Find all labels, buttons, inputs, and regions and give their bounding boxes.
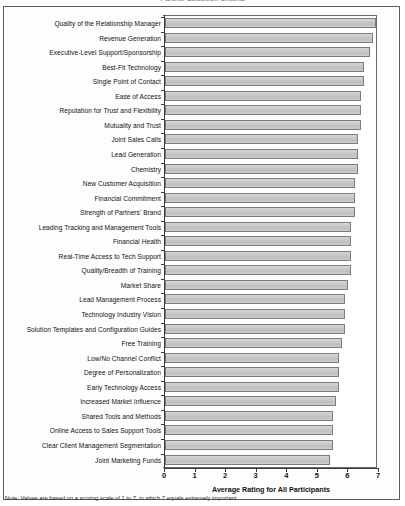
x-axis-tick-label: 6: [337, 471, 357, 480]
chart-title-text: Partner Selection Criteria: [0, 0, 405, 2]
bar: [165, 309, 345, 319]
bar: [165, 76, 364, 86]
bar: [165, 149, 358, 159]
bar: [165, 280, 348, 290]
bar: [165, 367, 339, 377]
bar: [165, 265, 351, 275]
bar: [165, 47, 370, 57]
bar-row: Lead Generation: [4, 148, 401, 162]
bar-series-layer: Quality of the Relationship ManagerReven…: [4, 7, 401, 477]
bar-row: Solution Templates and Configuration Gui…: [4, 323, 401, 337]
bar-category-label: Real-Time Access to Tech Support: [0, 251, 161, 262]
bar-row: Free Training: [4, 337, 401, 351]
bar: [165, 324, 345, 334]
bar: [165, 18, 376, 28]
x-axis-title: Average Rating for All Participants: [164, 485, 378, 494]
bar-row: Quality/Breadth of Training: [4, 264, 401, 278]
bar-row: Online Access to Sales Support Tools: [4, 424, 401, 438]
bar-category-label: Market Share: [0, 280, 161, 291]
bar-category-label: Chemistry: [0, 164, 161, 175]
bar: [165, 193, 355, 203]
bar-category-label: Increased Market Influence: [0, 396, 161, 407]
x-axis-tick-label: 2: [215, 471, 235, 480]
bar-row: Technology Industry Vision: [4, 308, 401, 322]
bar-category-label: Revenue Generation: [0, 33, 161, 44]
bar-row: Revenue Generation: [4, 32, 401, 46]
bar-row: Strength of Partners' Brand: [4, 206, 401, 220]
bar-category-label: Strength of Partners' Brand: [0, 207, 161, 218]
bar-category-label: Quality of the Relationship Manager: [0, 18, 161, 29]
x-axis-tick-label: 7: [368, 471, 388, 480]
bar: [165, 164, 358, 174]
bar: [165, 120, 361, 130]
bar: [165, 178, 355, 188]
bar-category-label: Clear Client Management Segmentation: [0, 440, 161, 451]
bar-row: Low/No Channel Conflict: [4, 352, 401, 366]
bar-category-label: Solution Templates and Configuration Gui…: [0, 324, 161, 335]
bar: [165, 251, 351, 261]
bar-row: Clear Client Management Segmentation: [4, 439, 401, 453]
bar-category-label: Joint Marketing Funds: [0, 455, 161, 466]
bar: [165, 455, 330, 465]
bar-category-label: Ease of Access: [0, 91, 161, 102]
bar-category-label: Lead Management Process: [0, 294, 161, 305]
bar-row: Increased Market Influence: [4, 395, 401, 409]
bar: [165, 91, 361, 101]
bar-row: Market Share: [4, 279, 401, 293]
x-axis-tick-label: 5: [307, 471, 327, 480]
bar-category-label: Reputation for Trust and Flexibility: [0, 105, 161, 116]
bar: [165, 294, 345, 304]
bar-category-label: Low/No Channel Conflict: [0, 353, 161, 364]
bar-row: Best-Fit Technology: [4, 61, 401, 75]
bar-row: Financial Commitment: [4, 192, 401, 206]
bar-row: Real-Time Access to Tech Support: [4, 250, 401, 264]
bar-category-label: Technology Industry Vision: [0, 309, 161, 320]
bar-category-label: Joint Sales Calls: [0, 134, 161, 145]
bar: [165, 134, 358, 144]
bar-row: Single Point of Contact: [4, 75, 401, 89]
x-axis-tick-label: 0: [154, 471, 174, 480]
bar: [165, 382, 339, 392]
bar-row: Executive-Level Support/Sponsorship: [4, 46, 401, 60]
bar-row: Shared Tools and Methods: [4, 410, 401, 424]
bar: [165, 411, 333, 421]
bar-category-label: Mutuality and Trust: [0, 120, 161, 131]
bar: [165, 396, 336, 406]
bar: [165, 62, 364, 72]
bar-category-label: Free Training: [0, 338, 161, 349]
bar-category-label: Shared Tools and Methods: [0, 411, 161, 422]
bar-row: Quality of the Relationship Manager: [4, 17, 401, 31]
chart-page-frame: Quality of the Relationship ManagerReven…: [3, 6, 400, 500]
bar-row: Leading Tracking and Management Tools: [4, 221, 401, 235]
bar-category-label: Single Point of Contact: [0, 76, 161, 87]
bar-category-label: Quality/Breadth of Training: [0, 265, 161, 276]
bar-category-label: Executive-Level Support/Sponsorship: [0, 47, 161, 58]
bar: [165, 353, 339, 363]
bar-category-label: Financial Health: [0, 236, 161, 247]
value-axis-line: [164, 468, 378, 469]
bar-category-label: New Customer Acquisition: [0, 178, 161, 189]
bar-category-label: Degree of Personalization: [0, 367, 161, 378]
bar-row: Degree of Personalization: [4, 366, 401, 380]
bar: [165, 236, 351, 246]
bar: [165, 33, 373, 43]
bar: [165, 338, 342, 348]
bar-row: Financial Health: [4, 235, 401, 249]
bar-row: Reputation for Trust and Flexibility: [4, 104, 401, 118]
bar: [165, 440, 333, 450]
bar-category-label: Early Technology Access: [0, 382, 161, 393]
bar-row: Joint Marketing Funds: [4, 454, 401, 468]
bar: [165, 207, 355, 217]
chart-footnote: Note: Values are based on a scoring scal…: [5, 495, 400, 501]
bar-category-label: Online Access to Sales Support Tools: [0, 425, 161, 436]
bar-row: Mutuality and Trust: [4, 119, 401, 133]
bar: [165, 222, 351, 232]
bar: [165, 105, 361, 115]
bar-row: New Customer Acquisition: [4, 177, 401, 191]
bar-category-label: Financial Commitment: [0, 193, 161, 204]
chart-plot-area: Quality of the Relationship ManagerReven…: [4, 7, 401, 477]
bar-row: Lead Management Process: [4, 293, 401, 307]
bar-category-label: Best-Fit Technology: [0, 62, 161, 73]
bar-row: Ease of Access: [4, 90, 401, 104]
x-axis-tick-label: 3: [246, 471, 266, 480]
